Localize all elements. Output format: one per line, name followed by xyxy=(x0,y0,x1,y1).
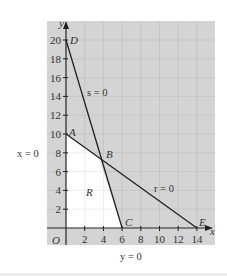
svg-text:6: 6 xyxy=(56,166,62,178)
svg-text:2: 2 xyxy=(56,203,62,215)
x-axis-label: x xyxy=(209,225,215,237)
y-eq-label: y = 0 xyxy=(120,251,142,262)
point-e-label: E xyxy=(198,216,206,228)
point-d-label: D xyxy=(69,34,78,46)
y-axis-label: y xyxy=(58,17,64,29)
point-a-label: A xyxy=(68,126,76,138)
s-line-label: s = 0 xyxy=(87,87,108,98)
r-line-label: r = 0 xyxy=(154,183,174,194)
origin-label: O xyxy=(52,234,60,246)
svg-text:14: 14 xyxy=(50,90,62,102)
point-b-label: B xyxy=(106,148,113,160)
svg-text:4: 4 xyxy=(101,233,107,245)
svg-text:12: 12 xyxy=(173,233,184,245)
linear-programming-chart: 24681012142468101214161820 y x O D A B C… xyxy=(0,0,227,276)
svg-text:6: 6 xyxy=(119,233,125,245)
svg-text:8: 8 xyxy=(56,147,62,159)
point-c-label: C xyxy=(125,216,133,228)
svg-text:18: 18 xyxy=(50,53,62,65)
svg-text:12: 12 xyxy=(50,109,61,121)
x-eq-label: x = 0 xyxy=(17,148,39,159)
svg-text:20: 20 xyxy=(50,34,62,46)
svg-text:4: 4 xyxy=(56,184,62,196)
svg-text:16: 16 xyxy=(50,72,62,84)
svg-text:8: 8 xyxy=(138,233,144,245)
svg-text:10: 10 xyxy=(50,128,62,140)
svg-text:10: 10 xyxy=(154,233,166,245)
svg-text:14: 14 xyxy=(191,233,203,245)
svg-text:2: 2 xyxy=(82,233,88,245)
region-label: R xyxy=(85,186,93,198)
